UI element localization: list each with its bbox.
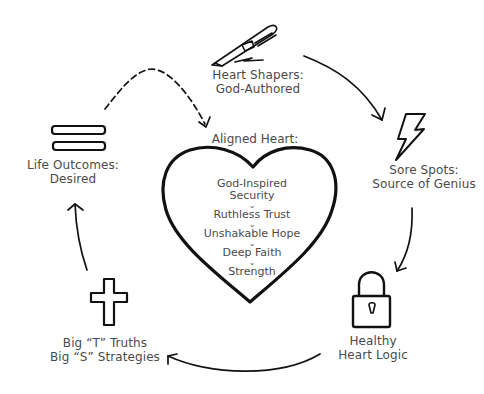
node-big-truths-label: Big “T” Truths Big “S” Strategies xyxy=(40,336,170,364)
equals-icon xyxy=(52,126,105,150)
arrow-logic-to-truths xyxy=(168,354,320,371)
label-line: Source of Genius xyxy=(364,177,484,191)
cross-icon xyxy=(91,279,127,325)
arrow-sore-spots-to-logic xyxy=(395,208,412,271)
pen-icon xyxy=(212,26,277,66)
lightning-bolt-icon xyxy=(396,114,425,160)
label-line: Heart Logic xyxy=(331,348,415,362)
node-life-outcomes-label: Life Outcomes: Desired xyxy=(18,158,128,186)
aligned-heart-list: God-Inspired Security ⌄ Ruthless Trust ⌄… xyxy=(190,178,314,278)
node-heart-shapers-label: Heart Shapers: God-Authored xyxy=(200,68,316,96)
label-line: Desired xyxy=(18,172,128,186)
arrow-truths-to-outcomes xyxy=(68,204,87,270)
label-line: Heart Shapers: xyxy=(200,68,316,82)
label-line: Healthy xyxy=(331,334,415,348)
node-healthy-heart-logic-label: Healthy Heart Logic xyxy=(331,334,415,362)
heart-item: Strength xyxy=(190,266,314,278)
label-line: Big “S” Strategies xyxy=(40,350,170,364)
label-line: Big “T” Truths xyxy=(40,336,170,350)
arrow-shapers-to-sore-spots xyxy=(304,56,385,120)
arrow-outcomes-to-heart-dashed xyxy=(105,69,210,127)
node-sore-spots-label: Sore Spots: Source of Genius xyxy=(364,163,484,191)
label-line: Life Outcomes: xyxy=(18,158,128,172)
aligned-heart-title: Aligned Heart: xyxy=(200,132,310,146)
padlock-icon xyxy=(353,272,390,327)
label-line: Sore Spots: xyxy=(364,163,484,177)
label-line: God-Authored xyxy=(200,82,316,96)
